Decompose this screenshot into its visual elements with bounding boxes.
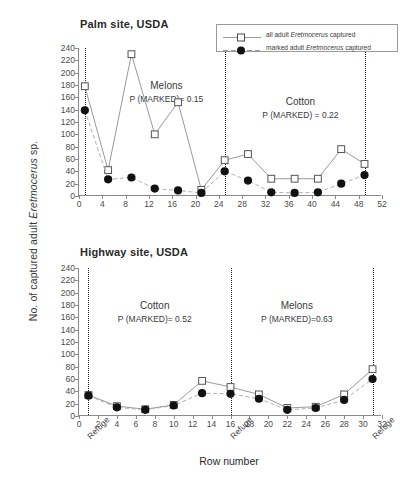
data-point-filled-circle	[198, 389, 206, 397]
refuge-label: Refuge	[85, 415, 111, 441]
data-point-open-square	[291, 175, 298, 182]
x-tick-mark	[382, 195, 383, 199]
data-point-open-square	[227, 384, 234, 391]
data-point-open-square	[128, 51, 135, 58]
plot-area-palm: 0204060801001201401601802002202400481216…	[78, 48, 381, 196]
data-point-filled-circle	[368, 375, 376, 383]
legend: all adult Eretmocerus captured marked ad…	[216, 24, 398, 52]
x-tick-label: 4	[115, 419, 120, 429]
data-point-filled-circle	[283, 406, 291, 414]
data-point-open-square	[175, 99, 182, 106]
x-tick-label: 26	[320, 419, 329, 429]
x-tick-label: 8	[152, 419, 157, 429]
legend-item-marked-adult: marked adult Eretmocerus captured	[223, 42, 390, 53]
legend-label-marked-adult: marked adult Eretmocerus captured	[266, 44, 371, 51]
data-point-filled-circle	[141, 406, 149, 414]
data-point-filled-circle	[340, 396, 348, 404]
x-tick-label: 44	[331, 199, 340, 209]
x-tick-label: 32	[261, 199, 270, 209]
figure-root: No. of captured adult Eretmocerus sp. Pa…	[0, 0, 400, 483]
data-point-filled-circle	[81, 106, 89, 114]
x-tick-label: 40	[307, 199, 316, 209]
x-tick-label: 30	[358, 419, 367, 429]
data-point-filled-circle	[104, 175, 112, 183]
x-tick-label: 28	[237, 199, 246, 209]
data-point-filled-circle	[221, 167, 229, 175]
x-tick-label: 4	[100, 199, 105, 209]
x-tick-label: 20	[264, 419, 273, 429]
legend-key-filled-circle	[223, 42, 261, 53]
x-tick-label: 0	[77, 199, 82, 209]
data-point-filled-circle	[244, 176, 252, 184]
panel-title-palm: Palm site, USDA	[80, 18, 169, 30]
data-point-open-square	[221, 157, 228, 164]
data-point-filled-circle	[151, 185, 159, 193]
x-tick-label: 24	[302, 419, 311, 429]
data-point-filled-circle	[226, 390, 234, 398]
x-tick-label: 22	[283, 419, 292, 429]
legend-key-open-square	[223, 29, 261, 40]
data-point-filled-circle	[170, 401, 178, 409]
data-point-filled-circle	[291, 189, 299, 197]
x-tick-label: 28	[339, 419, 348, 429]
data-point-filled-circle	[337, 180, 345, 188]
data-point-open-square	[361, 161, 368, 168]
x-tick-label: 12	[188, 419, 197, 429]
series-layer	[79, 48, 382, 196]
x-tick-label: 16	[167, 199, 176, 209]
data-point-filled-circle	[267, 188, 275, 196]
data-point-filled-circle	[174, 186, 182, 194]
data-point-open-square	[338, 146, 345, 153]
x-tick-label: 0	[77, 419, 82, 429]
data-point-filled-circle	[84, 392, 92, 400]
data-point-open-square	[199, 377, 206, 384]
data-point-filled-circle	[360, 171, 368, 179]
plot-area-highway: 0204060801001201401601802002202400246810…	[78, 268, 381, 416]
x-tick-label: 8	[123, 199, 128, 209]
x-tick-label: 52	[377, 199, 386, 209]
series-line	[85, 110, 365, 193]
x-tick-label: 48	[354, 199, 363, 209]
x-tick-label: 10	[169, 419, 178, 429]
panel-title-highway: Highway site, USDA	[80, 246, 188, 258]
x-tick-label: 24	[214, 199, 223, 209]
data-point-filled-circle	[127, 173, 135, 181]
x-tick-label: 36	[284, 199, 293, 209]
legend-label-all-adult: all adult Eretmocerus captured	[266, 31, 355, 38]
legend-item-all-adult: all adult Eretmocerus captured	[223, 29, 390, 40]
x-tick-label: 6	[133, 419, 138, 429]
data-point-open-square	[151, 131, 158, 138]
chart-panel-highway-site: Highway site, USDA 020406080100120140160…	[0, 240, 400, 483]
series-layer	[79, 268, 382, 416]
x-axis-title: Row number	[78, 455, 380, 467]
data-point-open-square	[245, 151, 252, 158]
data-point-open-square	[81, 83, 88, 90]
x-tick-label: 12	[144, 199, 153, 209]
data-point-open-square	[315, 175, 322, 182]
data-point-open-square	[268, 175, 275, 182]
data-point-filled-circle	[312, 404, 320, 412]
x-tick-label: 14	[207, 419, 216, 429]
data-point-filled-circle	[113, 403, 121, 411]
data-point-filled-circle	[197, 189, 205, 197]
data-point-open-square	[369, 366, 376, 373]
x-tick-label: 20	[191, 199, 200, 209]
data-point-filled-circle	[314, 188, 322, 196]
x-tick-mark	[382, 415, 383, 419]
data-point-filled-circle	[255, 395, 263, 403]
